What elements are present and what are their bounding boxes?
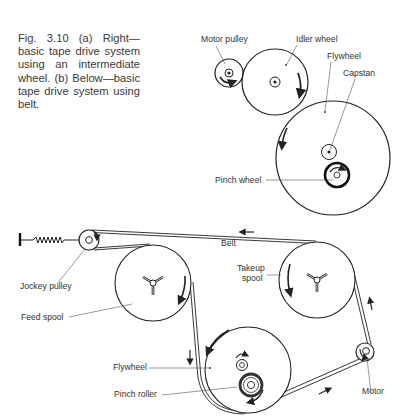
- label-motor: Motor: [362, 386, 384, 396]
- label-takeup: Takeup: [237, 263, 265, 273]
- capstan: [322, 145, 337, 160]
- label-pinch-roller: Pinch roller: [114, 389, 157, 399]
- label-spool: spool: [242, 273, 263, 283]
- label-belt: Belt: [221, 238, 236, 248]
- label-flywheel-b: Flywheel: [113, 362, 147, 372]
- label-idler-wheel: Idler wheel: [296, 34, 338, 44]
- label-motor-pulley: Motor pulley: [201, 34, 249, 44]
- direction-arrow-icon: [370, 300, 372, 310]
- diagram-a-intermediate-wheel: Motor pulley Idler wheel Flywheel Capsta…: [201, 34, 390, 215]
- label-pinch-wheel: Pinch wheel: [215, 175, 261, 185]
- label-feed-spool: Feed spool: [21, 312, 64, 322]
- tape-drive-diagram: Motor pulley Idler wheel Flywheel Capsta…: [0, 0, 401, 417]
- rotation-arrow-icon: [220, 77, 233, 83]
- motor-pulley-b: [356, 343, 374, 361]
- direction-arrow-icon: [319, 389, 329, 394]
- rotation-arrow-icon: [330, 168, 343, 172]
- diagram-b-belt-drive: Belt Jockey pulley Feed spool Takeup spo…: [20, 230, 384, 414]
- idler-wheel: [242, 49, 308, 115]
- label-capstan: Capstan: [343, 68, 375, 78]
- label-flywheel-a: Flywheel: [327, 51, 361, 61]
- takeup-spool: [279, 242, 355, 318]
- label-jockey-pulley: Jockey pulley: [20, 281, 72, 291]
- motor-pulley: [215, 59, 243, 87]
- tension-spring: [20, 233, 86, 246]
- flywheel-b: [205, 327, 291, 413]
- feed-spool: [115, 245, 191, 321]
- jockey-pulley: [79, 230, 99, 250]
- pinch-wheel: [325, 163, 349, 187]
- rotation-arrow-icon: [298, 73, 301, 94]
